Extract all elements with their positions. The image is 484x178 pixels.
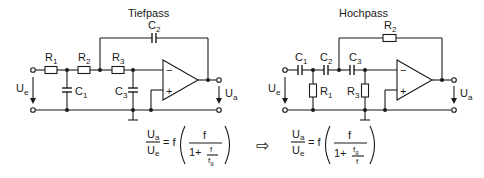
highpass-circuit: Hochpass − +	[268, 7, 473, 166]
implies-arrow-icon: ⇨	[256, 137, 269, 154]
resistor-r1-lp	[45, 67, 57, 74]
svg-text:1+: 1+	[334, 147, 347, 159]
resistor-r2-hp	[383, 35, 396, 42]
svg-text:Ua: Ua	[147, 128, 160, 142]
svg-text:Ue: Ue	[292, 144, 305, 158]
opamp-plus-lp: +	[166, 85, 172, 97]
opamp-plus-hp: +	[400, 85, 406, 97]
svg-text:Ua: Ua	[225, 87, 238, 102]
svg-text:R1: R1	[45, 51, 58, 66]
resistor-r2-lp	[78, 67, 90, 74]
svg-text:f: f	[210, 145, 213, 154]
svg-text:fg: fg	[208, 156, 214, 166]
resistor-r3-hp	[362, 84, 369, 97]
lowpass-circuit: Tiefpass − +	[16, 7, 238, 166]
svg-text:R3: R3	[347, 85, 360, 100]
opamp-minus-hp: −	[400, 64, 406, 76]
lowpass-title: Tiefpass	[128, 7, 170, 19]
svg-text:C2: C2	[320, 51, 333, 66]
svg-text:Ua: Ua	[292, 128, 305, 142]
svg-text:C1: C1	[295, 51, 308, 66]
arrow-down-icon	[30, 98, 36, 104]
input-terminal-lp	[31, 68, 36, 73]
output-terminal-lp	[217, 78, 222, 83]
arrow-down-icon	[216, 98, 222, 104]
svg-text:C3: C3	[115, 85, 128, 100]
svg-text:C1: C1	[75, 85, 88, 100]
output-terminal-hp	[452, 78, 457, 83]
svg-text:f: f	[203, 129, 207, 141]
arrow-down-icon	[282, 98, 288, 104]
resistor-r1-hp	[310, 84, 317, 97]
highpass-title: Hochpass	[339, 7, 388, 19]
svg-text:Ue: Ue	[268, 82, 281, 97]
svg-text:Ua: Ua	[460, 87, 473, 102]
resistor-r3-lp	[112, 67, 124, 74]
lowpass-formula: Ua Ue = f f 1+ f fg	[146, 126, 230, 166]
svg-text:1+: 1+	[189, 146, 202, 158]
opamp-minus-lp: −	[166, 64, 172, 76]
svg-text:R1: R1	[320, 85, 333, 100]
highpass-formula: Ua Ue = f f 1+ fg f	[291, 126, 375, 166]
svg-text:= f: = f	[163, 136, 176, 148]
arrow-down-icon	[451, 98, 457, 104]
svg-text:Ue: Ue	[147, 144, 160, 158]
svg-text:fg: fg	[353, 145, 359, 155]
svg-text:= f: = f	[308, 136, 321, 148]
svg-text:Ue: Ue	[16, 82, 29, 97]
svg-text:f: f	[356, 157, 359, 166]
svg-text:R2: R2	[78, 51, 91, 66]
svg-text:R3: R3	[112, 51, 125, 66]
svg-text:f: f	[348, 129, 352, 141]
svg-text:C3: C3	[349, 51, 362, 66]
input-terminal-hp	[283, 68, 288, 73]
svg-text:R2: R2	[384, 19, 397, 34]
svg-text:C2: C2	[148, 19, 161, 34]
circuit-diagram: Tiefpass − +	[0, 0, 484, 178]
